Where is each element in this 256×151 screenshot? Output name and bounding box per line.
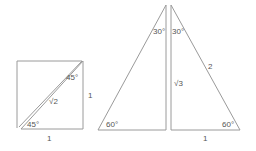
triangles-diagram: 45° 45° √2 1 1 30° 60° 30° 60° √3 2 1 [0,0,256,151]
hypotenuse-sqrt2-label: √2 [49,97,58,106]
right-30-60-90-triangle [171,5,240,130]
square-upper-left-triangle [17,61,82,128]
angle-45-top-label: 45° [66,73,78,82]
left-angle-60-label: 60° [106,120,118,129]
square-lower-right-triangle [21,61,83,129]
right-angle-30-label: 30° [172,27,184,36]
side-sqrt3-label: √3 [174,79,183,88]
left-angle-30-label: 30° [153,27,165,36]
side-1-right-label: 1 [88,91,93,100]
right-angle-60-label: 60° [222,120,234,129]
side-1-bottom-label: 1 [47,134,52,143]
left-30-60-90-triangle [98,5,166,130]
hypotenuse-2-label: 2 [208,62,213,71]
angle-45-bottom-label: 45° [27,120,39,129]
side-1-label: 1 [203,134,208,143]
